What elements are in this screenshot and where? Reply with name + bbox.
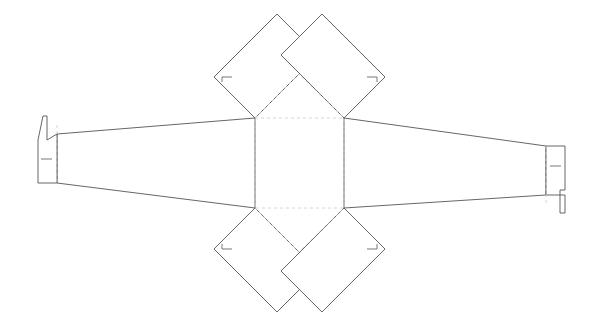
dieline-canvas xyxy=(0,0,603,329)
